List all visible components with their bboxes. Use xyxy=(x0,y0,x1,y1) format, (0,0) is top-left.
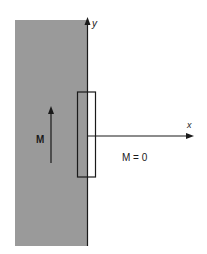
zero-magnetization-label: M = 0 xyxy=(122,152,148,163)
x-axis-label: x xyxy=(186,120,192,130)
magnetized-slab-diagram: y x M M = 0 xyxy=(0,0,207,254)
x-axis-arrowhead-icon xyxy=(186,133,194,139)
magnetization-label: M xyxy=(36,134,44,145)
y-axis-label: y xyxy=(91,18,98,29)
